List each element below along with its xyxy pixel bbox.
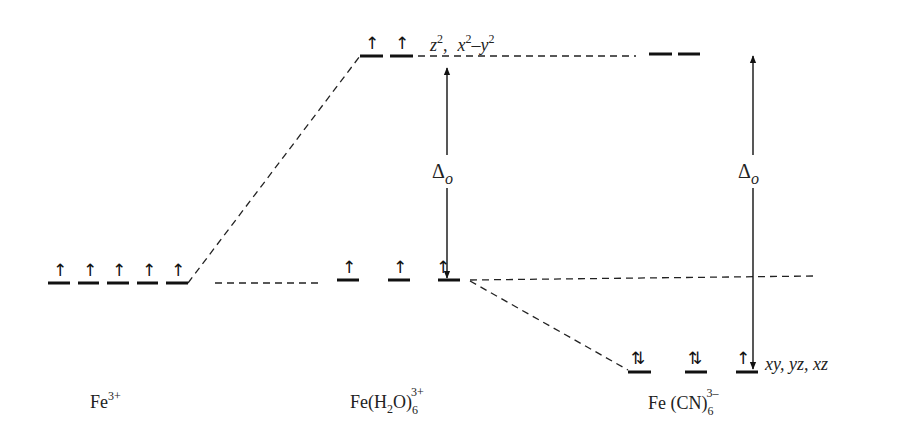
free-ion-levels: ↑ ↑ ↑ ↑ ↑: [48, 260, 188, 283]
spin-up-icon: ↑: [395, 33, 409, 53]
spin-up-icon: ↑: [112, 260, 126, 280]
spin-up-icon: ↑: [83, 260, 97, 280]
label-hexacyano: Fe (CN)63–: [648, 386, 720, 418]
spin-up-icon: ↑: [342, 257, 356, 277]
spin-up-icon: ↑: [736, 348, 750, 368]
spin-pair-icon: ⇅: [688, 348, 702, 368]
spin-up-icon: ↑: [365, 33, 379, 53]
t2g-orbital-label: xy, yz, xz: [764, 354, 828, 374]
eg-orbital-label: z2,x2–y2: [429, 32, 495, 55]
connector-to-eg-aqua: [188, 56, 360, 283]
crystal-field-diagram: ↑ ↑ ↑ ↑ ↑ ↑ ↑ z2,x2–y2 ↑ ↑ ↑ Δo: [0, 0, 897, 430]
spin-up-icon: ↑: [53, 260, 67, 280]
barycenter-line-right: [470, 276, 815, 280]
spin-up-icon: ↑: [142, 260, 156, 280]
cyano-t2g-levels: ⇅ ⇅ ↑: [628, 348, 758, 372]
aqua-t2g-levels: ↑ ↑ ↑: [337, 257, 460, 280]
aqua-eg-levels: ↑ ↑: [360, 33, 413, 56]
delta-o-label-cyano: Δo: [738, 160, 759, 187]
spin-up-icon: ↑: [171, 260, 185, 280]
spin-up-icon: ↑: [393, 257, 407, 277]
connector-to-t2g-cyano: [470, 281, 628, 370]
label-hexaaqua: Fe(H2O)63+: [350, 385, 424, 417]
spin-up-icon: ↑: [436, 257, 450, 277]
spin-pair-icon: ⇅: [631, 348, 645, 368]
label-free-ion: Fe3+: [90, 389, 121, 412]
delta-o-label-aqua: Δo: [432, 160, 453, 187]
